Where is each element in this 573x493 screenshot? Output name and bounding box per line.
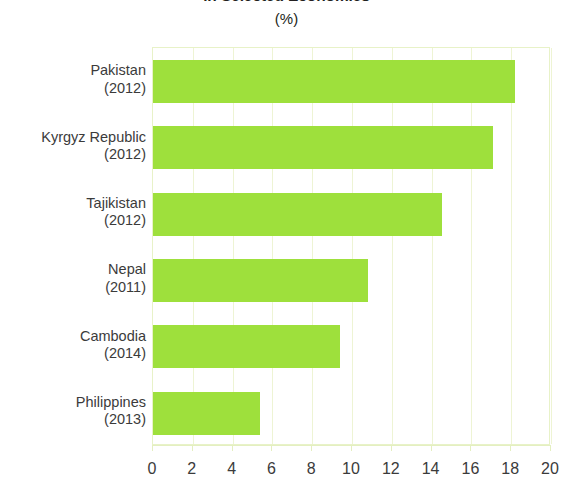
category-country: Kyrgyz Republic [0, 129, 146, 147]
bar-chart-figure: in Selected Economies (%) Pakistan(2012)… [0, 0, 573, 493]
category-label: Kyrgyz Republic(2012) [0, 129, 146, 164]
bar-row [153, 181, 549, 247]
x-tick-label: 16 [450, 460, 490, 478]
x-tick-mark [431, 445, 432, 451]
bar [153, 325, 340, 368]
chart-title: in Selected Economies [0, 0, 573, 4]
category-year: (2012) [0, 212, 146, 230]
bar-row [153, 247, 549, 313]
category-country: Philippines [0, 394, 146, 412]
category-country: Tajikistan [0, 195, 146, 213]
category-country: Pakistan [0, 62, 146, 80]
plot-area [152, 47, 550, 445]
category-country: Cambodia [0, 328, 146, 346]
bar-row [153, 114, 549, 180]
x-tick-mark [351, 445, 352, 451]
bar-row [153, 313, 549, 379]
category-label: Pakistan(2012) [0, 62, 146, 97]
category-label: Nepal(2011) [0, 261, 146, 296]
x-tick-mark [470, 445, 471, 451]
category-label: Philippines(2013) [0, 394, 146, 429]
x-tick-mark [271, 445, 272, 451]
x-tick-label: 2 [172, 460, 212, 478]
x-tick-mark [311, 445, 312, 451]
x-tick-label: 6 [251, 460, 291, 478]
category-year: (2014) [0, 345, 146, 363]
category-year: (2011) [0, 279, 146, 297]
x-tick-label: 18 [490, 460, 530, 478]
y-axis-category-labels: Pakistan(2012)Kyrgyz Republic(2012)Tajik… [0, 47, 146, 445]
title-block: in Selected Economies (%) [0, 0, 573, 29]
gridline [551, 48, 552, 444]
x-tick-mark [510, 445, 511, 451]
x-tick-label: 10 [331, 460, 371, 478]
chart-subtitle: (%) [0, 9, 573, 29]
x-tick-label: 8 [291, 460, 331, 478]
x-tick-mark [152, 445, 153, 451]
x-tick-mark [192, 445, 193, 451]
x-tick-label: 0 [132, 460, 172, 478]
category-year: (2013) [0, 411, 146, 429]
x-tick-mark [232, 445, 233, 451]
bar-row [153, 48, 549, 114]
category-year: (2012) [0, 80, 146, 98]
x-tick-label: 20 [530, 460, 570, 478]
bar [153, 126, 493, 169]
bar [153, 259, 368, 302]
bar [153, 392, 260, 435]
bar-row [153, 380, 549, 446]
category-country: Nepal [0, 261, 146, 279]
category-label: Tajikistan(2012) [0, 195, 146, 230]
category-year: (2012) [0, 146, 146, 164]
x-tick-label: 14 [411, 460, 451, 478]
x-tick-mark [391, 445, 392, 451]
x-tick-label: 4 [212, 460, 252, 478]
category-label: Cambodia(2014) [0, 328, 146, 363]
x-tick-mark [550, 445, 551, 451]
bar [153, 60, 515, 103]
bar [153, 193, 442, 236]
x-tick-label: 12 [371, 460, 411, 478]
